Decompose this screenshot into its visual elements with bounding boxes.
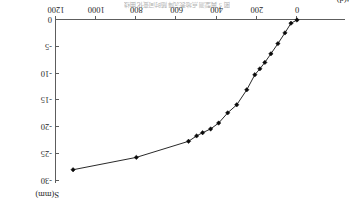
data-point-marker xyxy=(289,21,293,25)
y-tick-label: -20 xyxy=(41,122,52,132)
data-point-marker xyxy=(71,168,75,172)
x-tick-label: 1200 xyxy=(48,5,65,15)
series-markers xyxy=(71,18,299,172)
settlement-time-chart: 图 5 典型测点地表沉降随时间变化曲线 t(d) S(mm) 020040060… xyxy=(0,0,354,201)
x-tick-label: 400 xyxy=(210,5,223,15)
y-tick-label: -30 xyxy=(41,176,52,186)
x-tick-label: 600 xyxy=(170,5,183,15)
data-point-marker xyxy=(200,131,204,135)
series-plot xyxy=(56,20,297,181)
y-tick-label: -5 xyxy=(45,42,52,52)
x-tick-label: 800 xyxy=(130,5,143,15)
x-axis-label: t(d) xyxy=(337,0,349,5)
x-tick-label: 200 xyxy=(250,5,263,15)
y-tick-label: -10 xyxy=(41,69,52,79)
plot-area: t(d) S(mm) 020040060080010001200 0-5-10-… xyxy=(56,20,297,181)
series-line-settlement xyxy=(73,20,297,170)
x-tick-label: 1000 xyxy=(88,5,105,15)
y-tick-label: -15 xyxy=(41,96,52,106)
x-tick-label: 0 xyxy=(295,5,299,15)
y-axis-label: S(mm) xyxy=(35,190,59,200)
rotated-figure-wrapper: 图 5 典型测点地表沉降随时间变化曲线 t(d) S(mm) 020040060… xyxy=(0,0,354,201)
y-tick-label: -25 xyxy=(41,149,52,159)
y-tick-label: 0 xyxy=(48,15,52,25)
data-point-marker xyxy=(134,155,138,159)
